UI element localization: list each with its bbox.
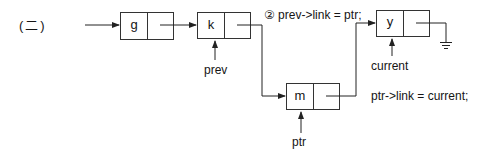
statement-step2: ② prev->link = ptr; <box>264 8 361 22</box>
prev-label: prev <box>204 63 227 77</box>
ground-icon <box>440 43 452 49</box>
section-label: (二) <box>19 19 47 33</box>
linked-list-insertion-diagram: (二) g k y m prev current ptr ② prev->lin… <box>0 0 494 156</box>
statement-ptr-link: ptr->link = current; <box>371 89 468 103</box>
node-m-data: m <box>287 89 313 103</box>
node-k-data: k <box>198 18 224 32</box>
current-label: current <box>371 59 408 73</box>
node-y-data: y <box>377 15 403 29</box>
diagram-lines <box>0 0 494 156</box>
ptr-label: ptr <box>292 135 306 149</box>
node-g-data: g <box>121 18 147 32</box>
